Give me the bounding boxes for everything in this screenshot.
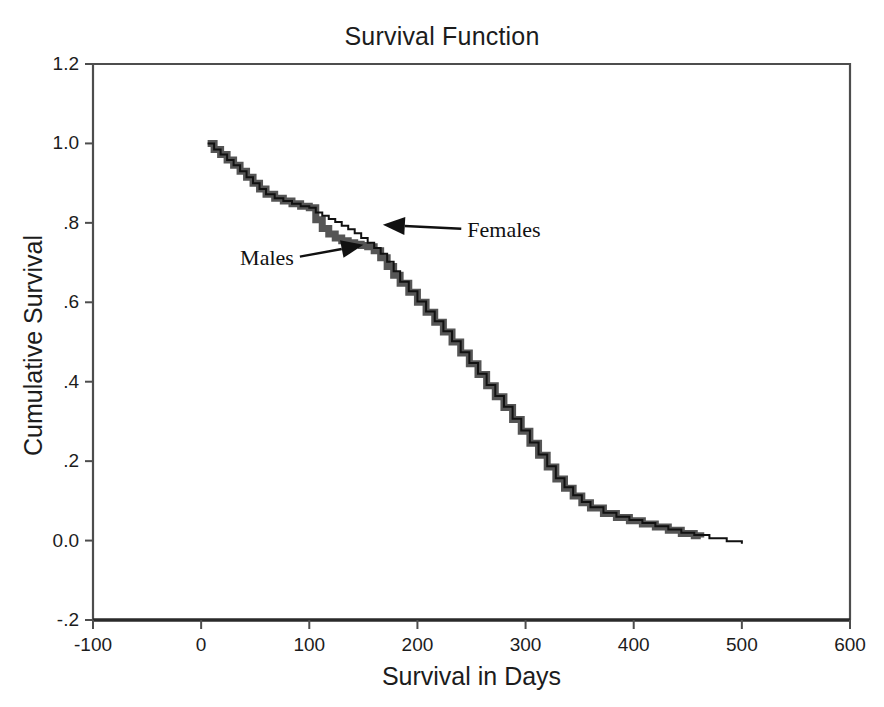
- x-tick-label: -100: [74, 634, 112, 655]
- survival-function-figure: Survival Function Cumulative Survival Su…: [0, 0, 884, 707]
- y-tick-label: 1.2: [53, 53, 79, 74]
- y-axis-ticks: -.20.0.2.4.6.81.01.2: [53, 53, 93, 630]
- x-tick-label: 600: [834, 634, 866, 655]
- x-tick-label: 400: [618, 634, 650, 655]
- annotation-label-females: Females: [467, 217, 540, 242]
- axis-frame: [93, 64, 850, 620]
- y-tick-label: -.2: [57, 609, 79, 630]
- x-tick-label: 300: [510, 634, 542, 655]
- data-series-group: [208, 143, 742, 543]
- y-tick-label: .8: [63, 212, 79, 233]
- x-tick-label: 500: [726, 634, 758, 655]
- plot-area: -.20.0.2.4.6.81.01.2 -100010020030040050…: [0, 0, 884, 707]
- y-tick-label: 1.0: [53, 132, 79, 153]
- x-tick-label: 100: [293, 634, 325, 655]
- x-tick-label: 0: [196, 634, 207, 655]
- y-tick-label: .2: [63, 450, 79, 471]
- x-tick-label: 200: [402, 634, 434, 655]
- annotation-label-males: Males: [240, 245, 294, 270]
- y-tick-label: .6: [63, 291, 79, 312]
- y-tick-label: 0.0: [53, 530, 79, 551]
- x-axis-ticks: -1000100200300400500600: [74, 620, 866, 655]
- y-tick-label: .4: [63, 371, 79, 392]
